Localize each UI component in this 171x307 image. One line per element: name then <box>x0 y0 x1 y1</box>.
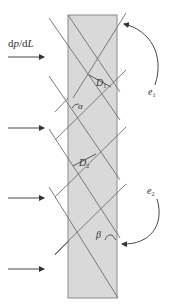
fracture-set-label-e1: e1 <box>148 86 155 98</box>
curved-arrow-e1 <box>124 24 158 85</box>
pressure-arrows <box>8 57 44 269</box>
pressure-gradient-label: dp/dL <box>8 37 34 49</box>
curved-arrow-e2 <box>122 199 159 244</box>
rock-slab <box>68 15 117 298</box>
angle-label-alpha: α <box>78 101 83 111</box>
angle-label-beta: β <box>95 229 101 240</box>
fracture-line <box>55 98 68 112</box>
fracture-line <box>55 241 69 255</box>
fracture-slab-diagram: dp/dL D1 α D2 β e1 e2 <box>0 0 171 307</box>
fracture-set-label-e2: e2 <box>147 185 154 197</box>
